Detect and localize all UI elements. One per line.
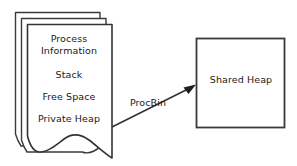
- label-procbin: ProcBin: [130, 97, 166, 109]
- label-stack: Stack: [56, 69, 83, 81]
- label-shared-heap: Shared Heap: [210, 74, 272, 86]
- label-process-information: Process Information: [41, 33, 97, 56]
- procbin-arrow-head: [184, 85, 197, 95]
- diagram-canvas: Process Information Stack Free Space Pri…: [0, 0, 297, 166]
- label-free-space: Free Space: [42, 91, 95, 103]
- label-private-heap: Private Heap: [38, 113, 100, 125]
